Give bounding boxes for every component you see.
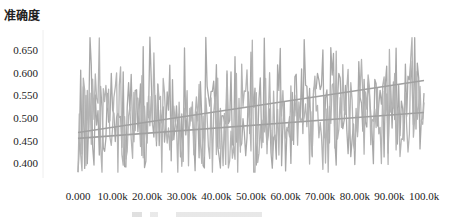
x-tick-label: 100.0k — [409, 190, 440, 202]
y-tick-label: 0.550 — [13, 89, 38, 101]
x-tick-label: 70.00k — [305, 190, 336, 202]
x-tick-label: 90.00k — [374, 190, 405, 202]
y-tick-label: 0.650 — [13, 44, 38, 56]
x-tick-label: 20.00k — [132, 190, 163, 202]
y-ticks: 0.6500.6000.5500.5000.4500.400 — [13, 44, 38, 169]
line-chart: 0.6500.6000.5500.5000.4500.400 0.00010.0… — [0, 0, 453, 217]
x-tick-label: 30.00k — [167, 190, 198, 202]
x-tick-label: 50.00k — [236, 190, 267, 202]
figure-caption-cropped — [132, 212, 262, 217]
x-ticks: 0.00010.00k20.00k30.00k40.00k50.00k60.00… — [66, 190, 440, 202]
y-tick-label: 0.400 — [13, 157, 38, 169]
y-tick-label: 0.600 — [13, 67, 38, 79]
x-tick-label: 0.000 — [66, 190, 91, 202]
y-tick-label: 0.450 — [13, 135, 38, 147]
x-tick-label: 40.00k — [201, 190, 232, 202]
x-tick-label: 60.00k — [270, 190, 301, 202]
y-tick-label: 0.500 — [13, 112, 38, 124]
x-tick-label: 10.00k — [97, 190, 128, 202]
x-tick-label: 80.00k — [340, 190, 371, 202]
series-group — [78, 37, 424, 172]
